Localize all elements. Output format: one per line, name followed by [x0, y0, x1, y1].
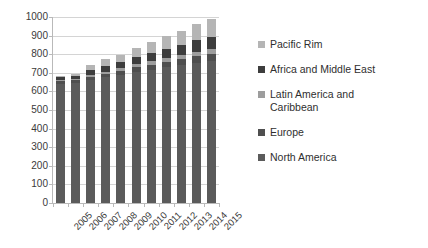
- bar-2013: [177, 31, 186, 203]
- bar-segment: [147, 42, 156, 53]
- y-axis-tick-label: 1000: [2, 12, 48, 22]
- bar-segment: [177, 45, 186, 55]
- y-axis-tick-label: 900: [2, 31, 48, 41]
- bar-segment: [177, 31, 186, 45]
- y-axis-tick-mark: [49, 73, 53, 74]
- y-axis-tick-mark: [49, 36, 53, 37]
- bar-2008: [101, 59, 110, 203]
- y-axis-tick-mark: [49, 129, 53, 130]
- legend-item[interactable]: North America: [258, 151, 426, 164]
- y-axis-tick-mark: [49, 110, 53, 111]
- legend-swatch-icon: [258, 66, 265, 73]
- y-axis-tick-mark: [49, 147, 53, 148]
- bar-segment: [71, 83, 80, 203]
- legend-label: Europe: [270, 126, 304, 139]
- y-axis-tick-label: 400: [2, 124, 48, 134]
- bar-2010: [132, 48, 141, 203]
- chart-container: 10009008007006005004003002001000 2005200…: [0, 0, 428, 248]
- bar-segment: [147, 53, 156, 61]
- legend-item[interactable]: Europe: [258, 126, 426, 139]
- bar-2012: [162, 36, 171, 203]
- y-axis-tick-label: 800: [2, 49, 48, 59]
- legend-item[interactable]: Latin America and Caribbean: [258, 88, 426, 114]
- y-axis-tick-label: 100: [2, 179, 48, 189]
- legend-item[interactable]: Africa and Middle East: [258, 63, 426, 76]
- bar-segment: [162, 67, 171, 203]
- bar-segment: [116, 55, 125, 62]
- legend-swatch-icon: [258, 91, 265, 98]
- bar-segment: [86, 80, 95, 203]
- bar-segment: [132, 48, 141, 57]
- bar-2009: [116, 55, 125, 203]
- y-axis-tick-mark: [49, 91, 53, 92]
- bar-segment: [56, 84, 65, 203]
- bar-2005: [56, 76, 65, 203]
- y-axis-tick-label: 600: [2, 86, 48, 96]
- chart-legend: Pacific RimAfrica and Middle EastLatin A…: [258, 38, 426, 176]
- y-axis-tick-mark: [49, 166, 53, 167]
- y-axis-tick-mark: [49, 17, 53, 18]
- legend-item[interactable]: Pacific Rim: [258, 38, 426, 51]
- bar-segment: [192, 40, 201, 52]
- bar-segment: [162, 36, 171, 49]
- y-axis-tick-label: 200: [2, 161, 48, 171]
- legend-label: Latin America and Caribbean: [270, 88, 354, 114]
- bar-2007: [86, 65, 95, 203]
- legend-swatch-icon: [258, 129, 265, 136]
- bar-segment: [147, 70, 156, 203]
- legend-label: Pacific Rim: [270, 38, 323, 51]
- plot-area: [52, 17, 219, 204]
- bar-2015: [207, 19, 216, 203]
- bar-2011: [147, 42, 156, 203]
- y-axis-tick-label: 0: [2, 198, 48, 208]
- gridline: [53, 17, 219, 18]
- x-axis: 2005200620072008200920102011201220132014…: [52, 204, 232, 248]
- bar-segment: [132, 72, 141, 203]
- y-axis-tick-mark: [49, 54, 53, 55]
- bar-segment: [192, 63, 201, 203]
- y-axis-tick-label: 700: [2, 68, 48, 78]
- legend-label: North America: [270, 151, 337, 164]
- bar-segment: [132, 57, 141, 64]
- bar-segment: [207, 54, 216, 61]
- bar-segment: [162, 49, 171, 58]
- legend-swatch-icon: [258, 154, 265, 161]
- y-axis-tick-label: 500: [2, 105, 48, 115]
- bar-segment: [207, 37, 216, 50]
- y-axis-tick-label: 300: [2, 142, 48, 152]
- legend-swatch-icon: [258, 41, 265, 48]
- bar-segment: [177, 65, 186, 203]
- bar-segment: [116, 75, 125, 203]
- bar-2014: [192, 24, 201, 203]
- y-axis: 10009008007006005004003002001000: [0, 0, 48, 248]
- bar-2006: [71, 74, 80, 203]
- bar-segment: [101, 77, 110, 203]
- bar-segment: [101, 59, 110, 66]
- bar-segment: [207, 19, 216, 37]
- bar-segment: [192, 24, 201, 40]
- y-axis-tick-mark: [49, 184, 53, 185]
- bar-segment: [207, 61, 216, 203]
- legend-label: Africa and Middle East: [270, 63, 375, 76]
